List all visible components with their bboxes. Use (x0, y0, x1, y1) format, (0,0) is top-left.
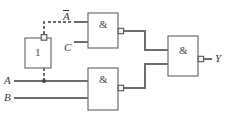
label-input-a: A (4, 75, 11, 86)
nand-gate-top-symbol-label: & (99, 19, 108, 30)
nand-gate-bottom-output-bubble (118, 85, 123, 90)
label-input-c: C (64, 42, 71, 53)
nand-gate-output-bubble (198, 56, 203, 61)
nand-gate-output-body (168, 36, 198, 76)
label-input-b: B (4, 92, 11, 103)
inverter-symbol-label: 1 (35, 47, 41, 58)
label-a-not: A (63, 10, 70, 22)
nand-gate-bottom-symbol-label: & (99, 74, 108, 85)
junction-dot-a (42, 79, 46, 83)
wire-nand-top-to-output-gate (123, 31, 168, 50)
label-output-y: Y (215, 53, 221, 64)
wire-inverter-output-to-a-not (44, 22, 76, 34)
inverter-output-bubble (41, 35, 47, 41)
label-a-not-text: A (63, 10, 70, 22)
logic-circuit-diagram: 1 & & & A C A B Y (0, 0, 228, 117)
circuit-svg (0, 0, 228, 117)
wire-nand-bottom-to-output-gate (123, 64, 168, 88)
nand-gate-top-output-bubble (118, 28, 123, 33)
nand-gate-output-symbol-label: & (179, 45, 188, 56)
